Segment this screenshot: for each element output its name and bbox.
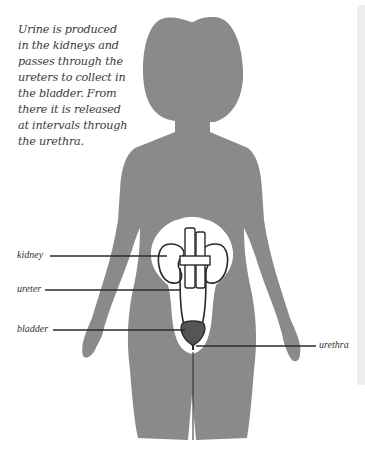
- caption-line: ureters to collect in: [18, 70, 158, 86]
- caption-line: in the kidneys and: [18, 38, 158, 54]
- label-ureter: ureter: [17, 283, 41, 294]
- label-urethra: urethra: [319, 339, 349, 350]
- caption-line: passes through the: [18, 54, 158, 70]
- page-edge-strip: [357, 5, 365, 385]
- urinary-system-diagram: Urine is produced in the kidneys and pas…: [0, 0, 365, 450]
- caption-line: there it is released: [18, 102, 158, 118]
- caption-text: Urine is produced in the kidneys and pas…: [18, 22, 158, 150]
- caption-line: the urethra.: [18, 134, 158, 150]
- label-bladder: bladder: [17, 323, 48, 334]
- label-kidney: kidney: [17, 249, 43, 260]
- caption-line: Urine is produced: [18, 22, 158, 38]
- caption-line: at intervals through: [18, 118, 158, 134]
- caption-line: the bladder. From: [18, 86, 158, 102]
